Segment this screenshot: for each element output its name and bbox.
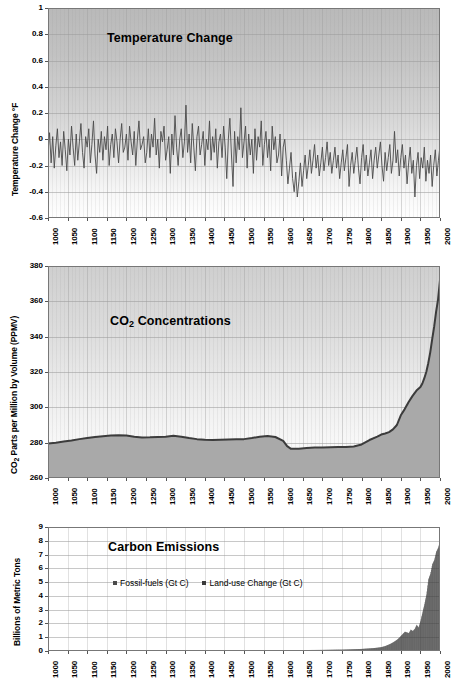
- x-tick-mark: [126, 651, 127, 654]
- y-tick-label: 0: [39, 135, 43, 143]
- x-tick-label: 1150: [110, 228, 118, 245]
- x-tick-label: 1350: [189, 228, 197, 245]
- x-tick-mark: [401, 478, 402, 481]
- emissions-legend: Fossil-fuels (Gt C) Land-use Change (Gt …: [113, 578, 303, 588]
- co2-chart-title: CO2 Concentrations: [110, 314, 231, 328]
- x-tick-label: 1200: [130, 228, 138, 245]
- x-tick-label: 1700: [326, 661, 334, 678]
- x-tick-label: 1900: [404, 488, 412, 505]
- x-tick-label: 1100: [91, 228, 99, 245]
- emissions-plot-area: [48, 527, 440, 651]
- x-tick-mark: [440, 478, 441, 481]
- temperature-chart-title: Temperature Change: [107, 31, 233, 45]
- legend-item-fossil-fuels: Fossil-fuels (Gt C): [113, 578, 188, 588]
- x-tick-label: 1250: [150, 488, 158, 505]
- y-tick-mark: [45, 266, 48, 267]
- x-tick-label: 1550: [267, 488, 275, 505]
- x-tick-label: 1650: [306, 488, 314, 505]
- x-tick-label: 1650: [306, 661, 314, 678]
- x-tick-label: 1850: [385, 661, 393, 678]
- y-tick-mark: [45, 541, 48, 542]
- x-tick-mark: [283, 218, 284, 221]
- x-tick-mark: [440, 651, 441, 654]
- y-tick-mark: [45, 555, 48, 556]
- x-tick-mark: [420, 651, 421, 654]
- x-tick-label: 1700: [326, 228, 334, 245]
- x-tick-label: 1850: [385, 488, 393, 505]
- y-tick-mark: [45, 596, 48, 597]
- y-tick-label: 9: [39, 523, 43, 531]
- x-tick-mark: [283, 651, 284, 654]
- x-tick-label: 1050: [71, 661, 79, 678]
- emissions-bars: [48, 541, 440, 651]
- y-tick-label: 1: [39, 4, 43, 12]
- y-tick-label: 1: [39, 633, 43, 641]
- x-tick-label: 1800: [365, 488, 373, 505]
- x-tick-label: 1400: [208, 661, 216, 678]
- x-tick-mark: [48, 218, 49, 221]
- emissions-y-axis-label: Billions of Metric Tons: [12, 558, 22, 646]
- x-tick-mark: [322, 651, 323, 654]
- x-tick-label: 1950: [424, 228, 432, 245]
- y-tick-mark: [45, 61, 48, 62]
- y-tick-mark: [45, 443, 48, 444]
- x-tick-mark: [224, 218, 225, 221]
- x-tick-label: 1300: [169, 228, 177, 245]
- x-tick-label: 1500: [248, 228, 256, 245]
- y-tick-mark: [45, 139, 48, 140]
- x-tick-label: 1750: [346, 228, 354, 245]
- x-tick-mark: [401, 218, 402, 221]
- co2-plot-area: [48, 266, 440, 478]
- x-tick-mark: [283, 478, 284, 481]
- x-tick-mark: [264, 478, 265, 481]
- y-tick-mark: [45, 527, 48, 528]
- x-tick-mark: [342, 218, 343, 221]
- x-tick-label: 1600: [287, 228, 295, 245]
- co2-y-axis-label: CO2 Parts per Million by Volume (PPMV): [9, 316, 19, 474]
- y-tick-label: -0.6: [29, 214, 43, 222]
- series-layer: [48, 527, 440, 651]
- x-tick-label: 1450: [228, 661, 236, 678]
- y-tick-label: 300: [30, 403, 43, 411]
- y-tick-label: 380: [30, 262, 43, 270]
- y-tick-mark: [45, 568, 48, 569]
- y-tick-label: 0: [39, 647, 43, 655]
- y-tick-label: 0.2: [32, 109, 43, 117]
- x-tick-label: 1900: [404, 661, 412, 678]
- x-tick-label: 1300: [169, 661, 177, 678]
- y-tick-label: 5: [39, 578, 43, 586]
- x-tick-label: 1200: [130, 661, 138, 678]
- y-tick-label: -0.2: [29, 162, 43, 170]
- x-tick-mark: [244, 651, 245, 654]
- x-tick-mark: [362, 478, 363, 481]
- x-tick-mark: [146, 478, 147, 481]
- x-tick-label: 1700: [326, 488, 334, 505]
- x-tick-mark: [166, 218, 167, 221]
- y-tick-mark: [45, 407, 48, 408]
- x-tick-mark: [224, 478, 225, 481]
- y-tick-mark: [45, 166, 48, 167]
- x-tick-mark: [303, 218, 304, 221]
- x-tick-mark: [87, 218, 88, 221]
- y-tick-mark: [45, 192, 48, 193]
- y-tick-label: 320: [30, 368, 43, 376]
- y-tick-mark: [45, 301, 48, 302]
- temperature-y-axis-label: Temperature Change °F: [10, 103, 20, 196]
- y-tick-label: 2: [39, 619, 43, 627]
- x-tick-label: 2000: [444, 488, 452, 505]
- x-tick-label: 1800: [365, 228, 373, 245]
- x-tick-label: 1950: [424, 661, 432, 678]
- x-tick-label: 1750: [346, 661, 354, 678]
- y-tick-mark: [45, 623, 48, 624]
- x-tick-label: 1200: [130, 488, 138, 505]
- x-tick-label: 1550: [267, 228, 275, 245]
- panel-co2-concentrations: CO2 Parts per Million by Volume (PPMV) 3…: [0, 262, 459, 512]
- x-tick-label: 1000: [52, 228, 60, 245]
- x-tick-mark: [322, 218, 323, 221]
- climate-figure: Temperature Change °F 10.80.60.40.20-0.2…: [0, 0, 459, 699]
- x-tick-label: 1450: [228, 488, 236, 505]
- x-tick-mark: [185, 218, 186, 221]
- y-tick-label: 8: [39, 537, 43, 545]
- x-tick-mark: [420, 218, 421, 221]
- x-tick-mark: [126, 218, 127, 221]
